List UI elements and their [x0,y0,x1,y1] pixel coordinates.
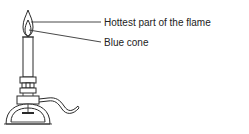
gas-jet [22,112,34,114]
bunsen-burner-diagram: Hottest part of the flame Blue cone [0,0,249,134]
label-hottest-part: Hottest part of the flame [104,17,211,28]
outer-flame [23,10,33,37]
air-collar-lower [20,88,36,93]
gas-intake-block [17,96,39,104]
air-hole [26,83,30,88]
label-blue-cone: Blue cone [104,37,149,48]
burner-barrel [23,37,33,77]
leader-blue-cone [29,30,101,42]
blue-cone-shape [25,20,31,36]
air-collar-upper [20,77,36,83]
hose-end [78,106,79,108]
